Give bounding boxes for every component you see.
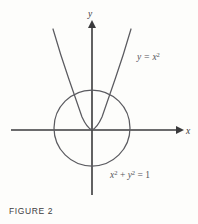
parabola-label-exponent: 2 xyxy=(157,51,160,58)
y-axis-arrowhead xyxy=(88,20,96,28)
coordinate-plot: y x y = x2 x2 + y2 = 1 xyxy=(0,0,198,224)
figure-container: y x y = x2 x2 + y2 = 1 FIGURE 2 xyxy=(0,0,198,224)
x-axis-arrowhead xyxy=(176,126,184,134)
parabola-equation-label: y = x2 xyxy=(136,51,160,63)
y-axis-label: y xyxy=(87,9,93,19)
parabola-label-text: y = x xyxy=(136,52,157,62)
x-axis-label: x xyxy=(185,126,191,136)
svg-text:y = x2: y = x2 xyxy=(136,51,160,63)
circle-label-plus: + xyxy=(118,170,128,180)
circle-label-equals: = 1 xyxy=(135,170,150,180)
circle-equation-label: x2 + y2 = 1 xyxy=(109,169,150,181)
figure-caption: FIGURE 2 xyxy=(9,206,53,216)
svg-text:x2 + y2 = 1: x2 + y2 = 1 xyxy=(109,169,150,181)
